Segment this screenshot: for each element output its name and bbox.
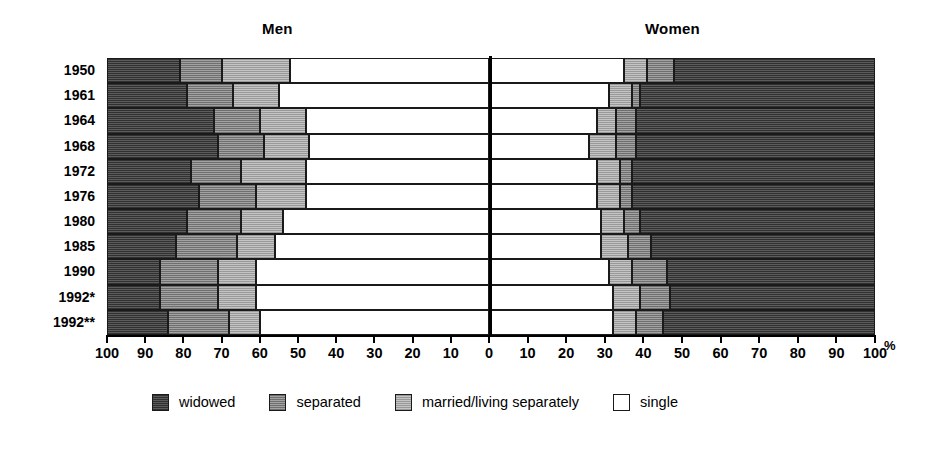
panel-title-women: Women [645, 20, 700, 37]
axis-tick [144, 335, 146, 343]
segment-women-widowed [636, 108, 875, 133]
year-label: 1964 [0, 108, 101, 133]
segment-men-single [306, 108, 489, 133]
axis-tick-label: 70 [751, 345, 767, 361]
segment-women-separated [628, 234, 651, 259]
legend-item-separated[interactable]: separated [269, 394, 361, 411]
segment-men-single [283, 209, 489, 234]
segment-women-married [601, 234, 628, 259]
segment-women-widowed [670, 285, 875, 310]
segment-women-married [597, 184, 620, 209]
legend-label: separated [296, 394, 361, 410]
year-label: 1968 [0, 134, 101, 159]
axis-tick-label: 80 [175, 345, 191, 361]
segment-women-separated [636, 310, 663, 335]
year-label: 1985 [0, 234, 101, 259]
segment-men-widowed [107, 159, 191, 184]
legend-label: single [640, 394, 678, 410]
segment-men-widowed [107, 209, 187, 234]
segment-men-married [241, 159, 306, 184]
axis-tick-label: 70 [214, 345, 230, 361]
segment-men-widowed [107, 285, 160, 310]
segment-men-separated [160, 285, 217, 310]
panel-title-men: Men [262, 20, 293, 37]
axis-tick [720, 335, 722, 343]
segment-men-separated [180, 58, 222, 83]
segment-women-single [489, 209, 601, 234]
segment-men-widowed [107, 58, 180, 83]
legend-item-widowed[interactable]: widowed [152, 394, 235, 411]
axis-tick-label: 20 [558, 345, 574, 361]
axis-tick [642, 335, 644, 343]
segment-women-single [489, 259, 609, 284]
axis-tick [106, 335, 108, 343]
segment-women-single [489, 134, 589, 159]
population-pyramid-chart: Men Women 195019611964196819721976198019… [0, 0, 944, 460]
axis-tick-label: 30 [366, 345, 382, 361]
year-label: 1990 [0, 259, 101, 284]
segment-men-single [290, 58, 489, 83]
axis-tick [450, 335, 452, 343]
axis-tick-label: 40 [635, 345, 651, 361]
axis-tick-label: 10 [443, 345, 459, 361]
segment-men-separated [168, 310, 229, 335]
segment-men-single [260, 310, 489, 335]
segment-women-married [601, 209, 624, 234]
axis-tick-label: 0 [485, 345, 493, 361]
axis-tick [412, 335, 414, 343]
segment-women-widowed [674, 58, 875, 83]
segment-men-married [218, 259, 256, 284]
segment-men-separated [199, 184, 256, 209]
segment-women-separated [616, 134, 635, 159]
segment-men-married [237, 234, 275, 259]
segment-men-separated [187, 83, 233, 108]
segment-women-widowed [632, 159, 875, 184]
segment-men-widowed [107, 134, 218, 159]
axis-tick-label: 80 [790, 345, 806, 361]
segment-men-separated [218, 134, 264, 159]
segment-women-widowed [663, 310, 875, 335]
segment-women-married [597, 108, 616, 133]
legend-item-single[interactable]: single [613, 394, 678, 411]
segment-women-separated [632, 259, 667, 284]
segment-women-separated [620, 159, 632, 184]
segment-men-single [256, 285, 489, 310]
segment-men-married [241, 209, 283, 234]
axis-tick [565, 335, 567, 343]
year-label: 1976 [0, 184, 101, 209]
segment-women-widowed [651, 234, 875, 259]
segment-women-single [489, 83, 609, 108]
axis-tick [221, 335, 223, 343]
legend-item-married[interactable]: married/living separately [395, 394, 579, 411]
legend-swatch-married-icon [395, 394, 412, 411]
segment-men-single [275, 234, 489, 259]
axis-tick [681, 335, 683, 343]
legend-swatch-widowed-icon [152, 394, 169, 411]
axis-tick [259, 335, 261, 343]
segment-men-married [233, 83, 279, 108]
segment-men-married [218, 285, 256, 310]
segment-men-married [264, 134, 310, 159]
axis-tick [297, 335, 299, 343]
segment-women-widowed [640, 209, 875, 234]
segment-men-single [306, 184, 489, 209]
segment-women-married [609, 259, 632, 284]
year-label: 1950 [0, 58, 101, 83]
axis-tick-label: 100 [95, 345, 119, 361]
legend-label: married/living separately [422, 394, 579, 410]
segment-men-widowed [107, 108, 214, 133]
segment-men-widowed [107, 310, 168, 335]
segment-women-widowed [667, 259, 875, 284]
segment-men-separated [187, 209, 240, 234]
legend-swatch-separated-icon [269, 394, 286, 411]
axis-tick-label: 10 [520, 345, 536, 361]
segment-women-widowed [636, 134, 875, 159]
axis-tick [797, 335, 799, 343]
chart-legend: widowedseparatedmarried/living separatel… [152, 391, 712, 413]
segment-women-single [489, 58, 624, 83]
segment-women-separated [640, 285, 671, 310]
segment-women-single [489, 184, 597, 209]
segment-men-separated [214, 108, 260, 133]
segment-women-widowed [640, 83, 875, 108]
axis-tick-label: 90 [828, 345, 844, 361]
